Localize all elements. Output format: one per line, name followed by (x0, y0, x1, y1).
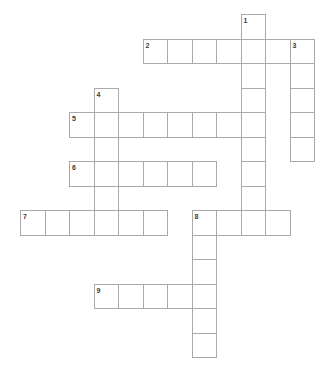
crossword-cell[interactable] (118, 161, 144, 187)
crossword-cell[interactable] (216, 39, 242, 65)
crossword-cell[interactable] (192, 259, 218, 285)
crossword-cell[interactable] (167, 112, 193, 138)
crossword-cell[interactable] (241, 137, 267, 163)
crossword-cell[interactable] (143, 161, 169, 187)
crossword-cell[interactable] (265, 39, 291, 65)
crossword-cell[interactable] (143, 39, 169, 65)
crossword-cell[interactable] (94, 284, 120, 310)
crossword-cell[interactable] (241, 112, 267, 138)
crossword-cell[interactable] (241, 186, 267, 212)
crossword-puzzle: 123456789 (0, 0, 331, 365)
crossword-cell[interactable] (290, 63, 316, 89)
crossword-cell[interactable] (94, 161, 120, 187)
crossword-cell[interactable] (69, 161, 95, 187)
crossword-cell[interactable] (290, 88, 316, 114)
crossword-cell[interactable] (94, 186, 120, 212)
crossword-cell[interactable] (167, 161, 193, 187)
crossword-cell[interactable] (118, 112, 144, 138)
crossword-cell[interactable] (290, 39, 316, 65)
crossword-cell[interactable] (192, 284, 218, 310)
crossword-cell[interactable] (118, 284, 144, 310)
crossword-cell[interactable] (290, 112, 316, 138)
crossword-grid[interactable]: 123456789 (0, 0, 331, 365)
crossword-cell[interactable] (290, 137, 316, 163)
crossword-cell[interactable] (241, 88, 267, 114)
crossword-cell[interactable] (192, 39, 218, 65)
crossword-cell[interactable] (216, 112, 242, 138)
crossword-cell[interactable] (20, 210, 46, 236)
crossword-cell[interactable] (167, 284, 193, 310)
crossword-cell[interactable] (94, 112, 120, 138)
crossword-cell[interactable] (118, 210, 144, 236)
crossword-cell[interactable] (192, 333, 218, 359)
crossword-cell[interactable] (69, 210, 95, 236)
crossword-cell[interactable] (94, 88, 120, 114)
crossword-cell[interactable] (167, 39, 193, 65)
crossword-cell[interactable] (143, 112, 169, 138)
crossword-cell[interactable] (216, 210, 242, 236)
crossword-cell[interactable] (241, 14, 267, 40)
crossword-cell[interactable] (94, 137, 120, 163)
crossword-cell[interactable] (241, 210, 267, 236)
crossword-cell[interactable] (45, 210, 71, 236)
crossword-cell[interactable] (241, 161, 267, 187)
crossword-cell[interactable] (192, 235, 218, 261)
crossword-cell[interactable] (143, 284, 169, 310)
crossword-cell[interactable] (69, 112, 95, 138)
crossword-cell[interactable] (192, 308, 218, 334)
crossword-cell[interactable] (265, 210, 291, 236)
crossword-cell[interactable] (241, 39, 267, 65)
crossword-cell[interactable] (94, 210, 120, 236)
crossword-cell[interactable] (143, 210, 169, 236)
crossword-cell[interactable] (241, 63, 267, 89)
crossword-cell[interactable] (192, 112, 218, 138)
crossword-cell[interactable] (192, 161, 218, 187)
crossword-cell[interactable] (192, 210, 218, 236)
